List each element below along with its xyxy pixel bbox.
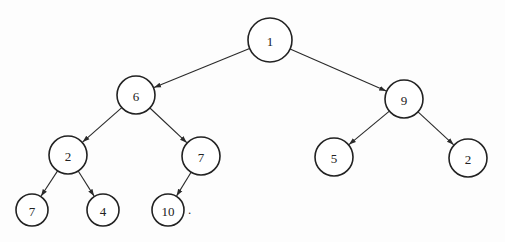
node-label: 4 [100,204,107,219]
tree-node-n5: 5 [315,138,353,176]
node-label: 2 [465,152,472,167]
edge-n1-to-n9 [290,49,386,91]
node-label: 2 [65,149,72,164]
tree-node-n7a: 7 [182,137,220,175]
node-label: 5 [331,151,338,166]
nodes-layer: 16927527410 [16,18,487,226]
edges-layer [41,48,454,196]
node-label: 7 [198,150,205,165]
trailing-period: . [188,202,191,217]
tree-node-n9: 9 [385,80,423,118]
edge-n1-to-n6 [154,48,250,87]
edge-n9-to-n5 [349,111,389,145]
node-label: 10 [162,204,175,219]
edge-n2a-to-n4 [78,171,94,196]
node-label: 1 [267,34,274,49]
tree-node-n4: 4 [87,194,119,226]
binary-tree-diagram: 16927527410 . [0,0,505,242]
tree-node-n6: 6 [117,76,155,114]
edge-n2a-to-n7b [41,171,58,196]
node-label: 6 [133,89,140,104]
edge-n6-to-n2a [83,108,122,143]
tree-node-n2b: 2 [449,139,487,177]
tree-node-n10: 10 [152,194,184,226]
edge-n7a-to-n10 [177,172,192,196]
edge-n6-to-n7a [150,108,187,143]
edge-n9-to-n2b [418,112,454,145]
node-label: 9 [401,93,408,108]
tree-node-n2a: 2 [49,136,87,174]
tree-node-n7b: 7 [16,194,48,226]
node-label: 7 [29,204,36,219]
tree-node-n1: 1 [248,18,292,62]
